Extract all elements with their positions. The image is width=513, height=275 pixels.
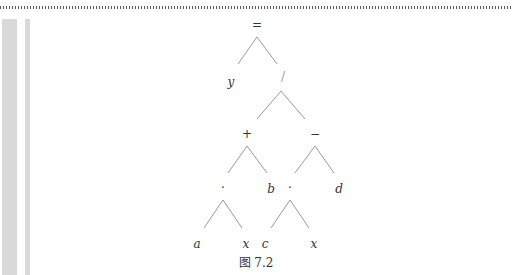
node-b: b <box>267 183 275 195</box>
node-a: a <box>193 238 200 250</box>
node-plus: + <box>242 128 252 140</box>
node-d: d <box>335 183 343 195</box>
node-equals: = <box>252 19 262 31</box>
node-y: y <box>228 76 235 88</box>
node-multiply-1: · <box>221 182 225 194</box>
edge-minus <box>295 146 334 173</box>
node-multiply-2: · <box>288 182 292 194</box>
expression-tree-edges <box>0 0 513 275</box>
edge-plus <box>228 146 267 173</box>
edge-div <box>257 91 305 119</box>
edge-mul2 <box>271 200 309 228</box>
node-x-1: x <box>243 238 250 250</box>
figure-caption: 图 7.2 <box>239 257 274 269</box>
node-c: c <box>262 238 269 250</box>
node-minus: − <box>310 128 320 140</box>
node-divide: / <box>281 71 285 83</box>
node-x-2: x <box>311 238 318 250</box>
edge-mul1 <box>204 200 242 228</box>
edge-root <box>238 37 277 64</box>
